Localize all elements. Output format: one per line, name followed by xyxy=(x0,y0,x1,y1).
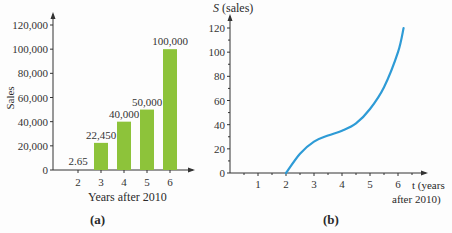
line-chart-x-label-2: after 2010) xyxy=(392,193,441,205)
charts-canvas: 020,00040,00060,00080,000100,000120,0002… xyxy=(0,0,452,233)
bar-data-label: 50,000 xyxy=(132,96,163,108)
line-x-arrow-icon xyxy=(421,171,428,176)
bar-y-tick-label: 40,000 xyxy=(18,116,49,128)
bar xyxy=(163,49,177,170)
line-chart-x-label-1: t (years xyxy=(412,179,445,191)
line-y-tick-label: 0 xyxy=(220,167,226,179)
caption-b: (b) xyxy=(323,212,339,228)
bar-y-tick-label: 100,000 xyxy=(12,43,48,55)
bar-data-label: 22,450 xyxy=(86,129,117,141)
bar-x-arrow-icon xyxy=(188,168,195,173)
line-x-tick-label: 1 xyxy=(255,178,261,190)
bar-chart-y-label: Sales xyxy=(4,86,16,109)
line-y-tick-label: 80 xyxy=(214,70,226,82)
bar xyxy=(140,110,154,170)
bar-y-tick-label: 20,000 xyxy=(18,140,49,152)
bar-y-tick-label: 80,000 xyxy=(18,67,49,79)
bar-x-tick-label: 2 xyxy=(75,176,81,188)
line-x-tick-label: 2 xyxy=(283,178,289,190)
bar xyxy=(94,143,108,170)
line-y-tick-label: 40 xyxy=(214,119,226,131)
y-label-rest: (sales) xyxy=(219,1,253,15)
bar-data-label: 40,000 xyxy=(109,108,140,120)
bar-chart-x-label: Years after 2010 xyxy=(88,190,167,205)
bar-y-tick-label: 60,000 xyxy=(18,92,49,104)
line-y-tick-label: 120 xyxy=(209,22,226,34)
bar-y-arrow-icon xyxy=(51,12,56,19)
bar-y-tick-label: 0 xyxy=(43,164,49,176)
line-x-tick-label: 6 xyxy=(395,178,401,190)
bar-y-tick-label: 120,000 xyxy=(12,19,48,31)
sales-curve xyxy=(286,28,404,173)
bar-x-tick-label: 5 xyxy=(144,176,150,188)
line-x-tick-label: 3 xyxy=(311,178,317,190)
bar-x-tick-label: 3 xyxy=(98,176,104,188)
line-y-tick-label: 60 xyxy=(214,95,226,107)
line-x-tick-label: 4 xyxy=(339,178,345,190)
line-y-tick-label: 100 xyxy=(209,46,226,58)
bar-data-label: 2.65 xyxy=(68,155,88,167)
caption-a: (a) xyxy=(90,212,105,228)
bar xyxy=(117,122,131,170)
line-chart-y-label: S (sales) xyxy=(213,1,253,16)
bar-x-tick-label: 4 xyxy=(121,176,127,188)
bar-x-tick-label: 6 xyxy=(167,176,173,188)
line-y-tick-label: 20 xyxy=(214,143,226,155)
bar-data-label: 100,000 xyxy=(152,35,188,47)
line-x-tick-label: 5 xyxy=(367,178,373,190)
